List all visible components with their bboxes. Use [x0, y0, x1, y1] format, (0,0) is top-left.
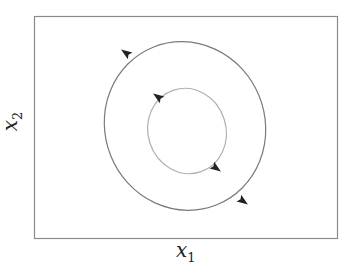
- inner-orbit: [137, 78, 238, 184]
- plot-frame: [35, 17, 338, 239]
- direction-arrow-icon: [119, 46, 133, 59]
- direction-arrow-icon: [237, 195, 251, 208]
- x1-axis-label: x1: [176, 238, 196, 265]
- direction-arrow-icon: [210, 162, 224, 175]
- outer-orbit: [79, 17, 291, 235]
- phase-portrait-diagram: [0, 0, 351, 274]
- x2-axis-label: x2: [0, 112, 25, 132]
